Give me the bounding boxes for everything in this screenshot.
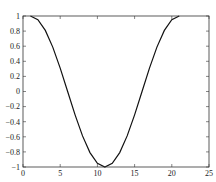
x-tick-label: 15 <box>131 169 139 178</box>
y-tick-label: 0 <box>16 87 20 96</box>
y-tick-label: −0.2 <box>5 102 20 111</box>
ticks-layer: 051015202510.80.60.40.20−0.2−0.4−0.6−0.8… <box>5 12 213 178</box>
y-tick-label: 0.8 <box>10 27 20 36</box>
y-tick-label: 0.2 <box>10 72 20 81</box>
line-chart: 051015202510.80.60.40.20−0.2−0.4−0.6−0.8… <box>0 0 216 182</box>
y-tick-label: −1 <box>11 163 20 172</box>
y-tick-label: 0.6 <box>10 42 20 51</box>
plot-frame <box>23 16 209 167</box>
x-tick-label: 0 <box>21 169 25 178</box>
x-tick-label: 10 <box>93 169 101 178</box>
y-tick-label: 1 <box>16 12 20 21</box>
x-tick-label: 20 <box>168 169 176 178</box>
x-tick-label: 5 <box>58 169 62 178</box>
y-tick-label: −0.4 <box>5 118 20 127</box>
x-tick-label: 25 <box>205 169 213 178</box>
y-tick-label: −0.8 <box>5 148 20 157</box>
series-layer <box>30 16 179 167</box>
y-tick-label: 0.4 <box>10 57 20 66</box>
y-tick-label: −0.6 <box>5 133 20 142</box>
series-line-cosine <box>30 16 179 167</box>
